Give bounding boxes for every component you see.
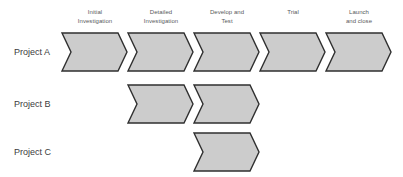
- row-label-3: Project C: [14, 147, 60, 158]
- chevron-row2-col3: [194, 85, 259, 123]
- column-header-3: Develop and Test: [194, 8, 260, 25]
- row-label-2: Project B: [14, 99, 60, 110]
- column-header-2: Detailed Investigation: [128, 8, 194, 25]
- chevron-row1-col3: [194, 33, 259, 71]
- chevron-row1-col5: [326, 33, 391, 71]
- chevron-row1-col4: [260, 33, 325, 71]
- chevron-row1-col1: [62, 33, 127, 71]
- column-header-1: Initial Investigation: [62, 8, 128, 25]
- chevron-row3-col3: [194, 133, 259, 171]
- column-header-5: Launch and close: [326, 8, 392, 25]
- chevron-row2-col2: [128, 85, 193, 123]
- row-label-1: Project A: [14, 47, 60, 58]
- chevron-row1-col2: [128, 33, 193, 71]
- process-chevron-diagram: Initial InvestigationDetailed Investigat…: [0, 0, 403, 177]
- column-header-4: Trial: [260, 8, 326, 17]
